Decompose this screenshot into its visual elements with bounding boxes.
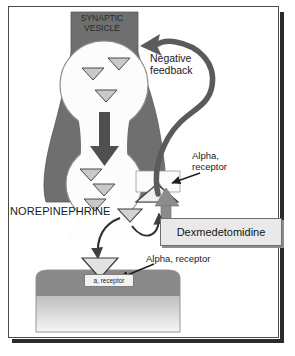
figure-root: SYNAPTIC VESICLE Negative feedback Alpha… <box>0 0 295 356</box>
dexmedetomidine-label: Dexmedetomidine <box>161 219 281 245</box>
frame-shadow-right <box>280 12 284 342</box>
synaptic-vesicle-label: SYNAPTIC VESICLE <box>72 14 132 34</box>
diagram-canvas <box>8 6 279 338</box>
negative-feedback-label: Negative feedback <box>150 52 193 76</box>
dexmedetomidine-callout-box: Dexmedetomidine <box>160 218 282 246</box>
frame-shadow-bottom <box>12 339 284 343</box>
postsynaptic-receptor-tag: a, receptor <box>84 274 134 287</box>
alpha2-receptor-presynaptic-label: Alpha, receptor <box>192 151 227 173</box>
alpha2-receptor-postsynaptic-label: Alpha, receptor <box>146 254 210 265</box>
norepinephrine-label: NOREPINEPHRINE <box>10 205 110 218</box>
